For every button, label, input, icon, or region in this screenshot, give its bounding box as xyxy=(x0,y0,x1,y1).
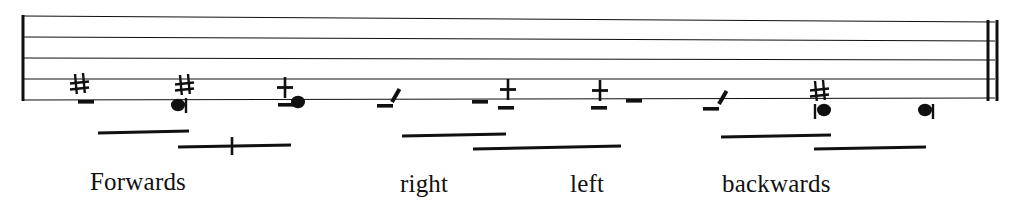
beam-5 xyxy=(721,135,831,137)
slash-mark xyxy=(719,91,727,104)
sharp-bar-lower xyxy=(810,95,829,97)
notehead xyxy=(171,99,185,111)
notation-symbols xyxy=(70,73,933,119)
dash-bar xyxy=(78,100,94,104)
slash-stroke xyxy=(719,91,727,104)
sharp-bar-lower xyxy=(70,88,89,90)
cross-mark xyxy=(500,79,516,100)
dash-mark xyxy=(626,99,642,103)
notation-figure: Forwardsrightleftbackwards xyxy=(0,0,1027,208)
cross-mark xyxy=(592,80,608,101)
beam-line xyxy=(721,135,831,137)
notehead xyxy=(291,96,305,108)
dash-bar xyxy=(377,104,393,108)
staff-line-2 xyxy=(23,37,995,41)
notehead-ellipse xyxy=(918,104,932,116)
dash-mark xyxy=(591,106,607,110)
notehead xyxy=(817,104,831,116)
staff-line-3 xyxy=(23,58,995,60)
beam-line xyxy=(98,131,189,133)
beam-4 xyxy=(473,146,621,149)
slash-mark xyxy=(392,89,400,102)
dash-bar xyxy=(591,106,607,110)
dash-bar xyxy=(472,100,488,104)
sharp-sign xyxy=(175,74,194,95)
notehead-ellipse xyxy=(171,99,185,111)
sharp-bar-upper xyxy=(70,82,89,84)
beam-3 xyxy=(402,134,506,136)
dash-mark xyxy=(78,100,94,104)
dash-bar xyxy=(498,106,514,110)
dash-bar xyxy=(703,107,719,111)
dash-mark xyxy=(377,104,393,108)
cross-mark xyxy=(277,77,293,98)
beam-line xyxy=(473,146,621,149)
beam-line xyxy=(814,147,926,149)
dash-mark xyxy=(472,100,488,104)
dash-bar xyxy=(626,99,642,103)
sharp-sign xyxy=(70,73,89,94)
beam-line xyxy=(402,134,506,136)
slash-stroke xyxy=(392,89,400,102)
staff-line-1 xyxy=(23,16,995,22)
beam-6 xyxy=(814,147,926,149)
sharp-bar-upper xyxy=(810,89,829,91)
notehead xyxy=(918,104,932,116)
dash-mark xyxy=(703,107,719,111)
dash-mark xyxy=(498,106,514,110)
sharp-bar-upper xyxy=(175,83,194,85)
notehead-ellipse xyxy=(291,96,305,108)
beam-2 xyxy=(178,145,291,147)
beam-1 xyxy=(98,131,189,133)
beam-line xyxy=(178,137,291,155)
notehead-ellipse xyxy=(817,104,831,116)
staff-notation-canvas xyxy=(0,0,1027,208)
sharp-bar-lower xyxy=(175,89,194,91)
beam-lines xyxy=(98,131,926,155)
